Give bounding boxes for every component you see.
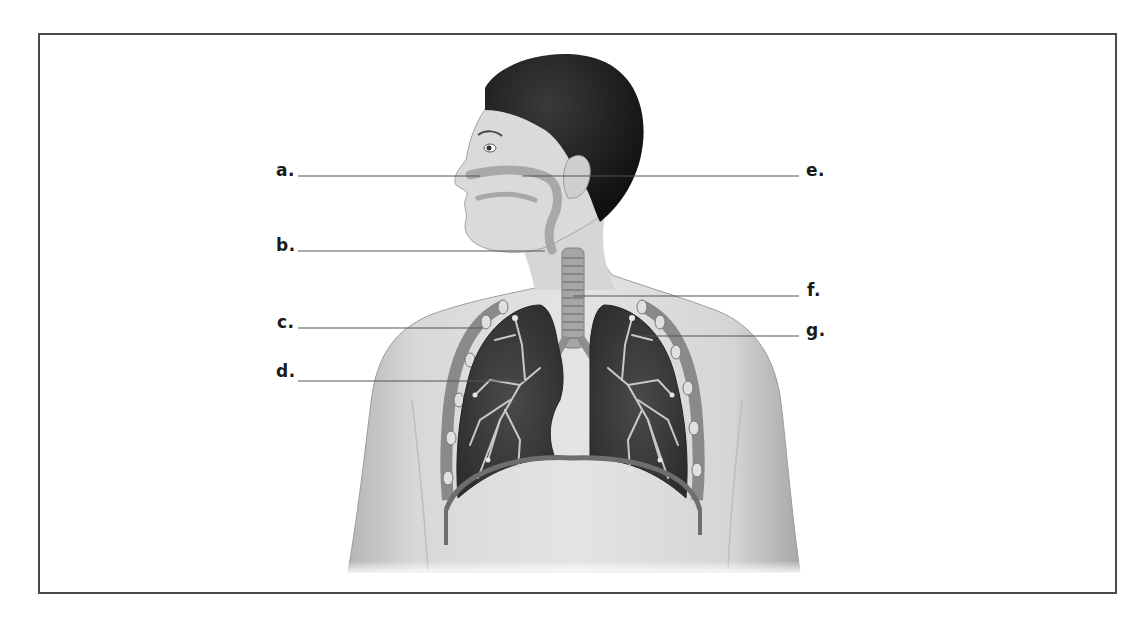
respiratory-system-illustration bbox=[0, 0, 1148, 625]
label-b: b. bbox=[276, 237, 296, 254]
label-d: d. bbox=[276, 363, 296, 380]
label-c: c. bbox=[277, 314, 295, 331]
head bbox=[455, 54, 644, 252]
label-f: f. bbox=[807, 282, 821, 299]
label-e: e. bbox=[806, 162, 825, 179]
label-a: a. bbox=[276, 162, 295, 179]
label-g: g. bbox=[806, 322, 826, 339]
